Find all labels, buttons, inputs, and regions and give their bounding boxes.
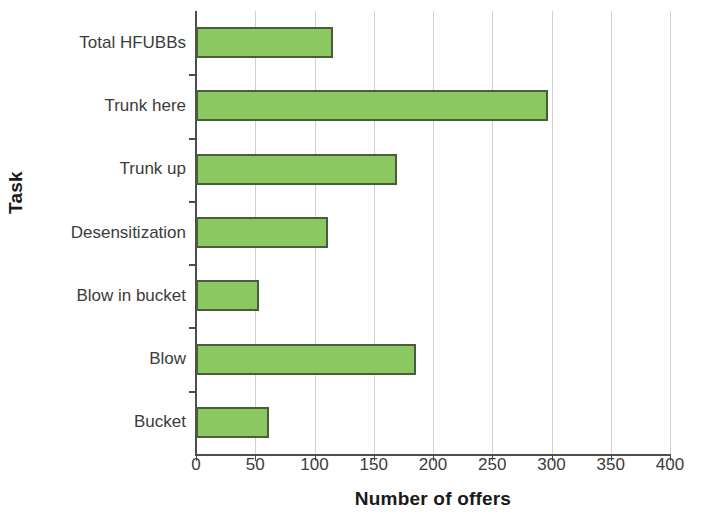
gridline: [552, 11, 553, 454]
gridline: [374, 11, 375, 454]
bar: [196, 90, 548, 121]
y-axis-tick: [189, 201, 196, 203]
x-axis-tick-label: 350: [581, 455, 641, 475]
category-label: Bucket: [20, 412, 186, 432]
category-label: Total HFUBBs: [20, 33, 186, 53]
y-axis-tick: [189, 138, 196, 140]
x-axis-tick-label: 300: [522, 455, 582, 475]
category-label: Trunk up: [20, 159, 186, 179]
bar: [196, 344, 416, 375]
plot-area: [196, 11, 670, 454]
x-axis-tick-label: 0: [166, 455, 226, 475]
x-axis-title: Number of offers: [196, 488, 670, 510]
y-axis-tick: [189, 327, 196, 329]
bar: [196, 217, 328, 248]
x-axis-tick-label: 150: [344, 455, 404, 475]
gridline: [670, 11, 671, 454]
category-axis-labels: Total HFUBBsTrunk hereTrunk upDesensitiz…: [20, 11, 186, 454]
gridline: [492, 11, 493, 454]
bar: [196, 280, 259, 311]
y-axis-tick: [189, 264, 196, 266]
category-label: Trunk here: [20, 96, 186, 116]
category-label: Desensitization: [20, 223, 186, 243]
gridline: [433, 11, 434, 454]
x-axis-tick-label: 100: [285, 455, 345, 475]
x-axis-tick-label: 400: [640, 455, 700, 475]
bar-chart: Task Total HFUBBsTrunk hereTrunk upDesen…: [0, 0, 703, 530]
category-label: Blow in bucket: [20, 286, 186, 306]
x-axis-tick-label: 200: [403, 455, 463, 475]
x-axis-tick-label: 250: [462, 455, 522, 475]
category-label: Blow: [20, 349, 186, 369]
bar: [196, 27, 333, 58]
y-axis-tick: [189, 391, 196, 393]
bar: [196, 407, 269, 438]
y-axis-tick: [189, 74, 196, 76]
bar: [196, 154, 397, 185]
gridline: [611, 11, 612, 454]
x-axis-tick-label: 50: [225, 455, 285, 475]
